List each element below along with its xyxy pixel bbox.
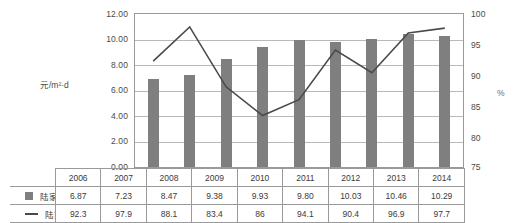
- year-header-2007: 2007: [101, 169, 146, 187]
- occupancy-2007: 97.9: [101, 205, 146, 223]
- rent-2012: 10.03: [328, 187, 373, 205]
- right-axis-tick-95: 95: [471, 40, 505, 50]
- occupancy-2012: 90.4: [328, 205, 373, 223]
- left-axis-tick-6: 6.00: [62, 85, 128, 95]
- bar-swatch-icon: [25, 192, 33, 200]
- legend-occupancy-label: 陆家嘴中心区入驻率: [45, 208, 55, 220]
- occupancy-2006: 92.3: [55, 205, 100, 223]
- right-axis-tick-100: 100: [471, 9, 505, 19]
- rent-2013: 10.46: [374, 187, 419, 205]
- rent-2010: 9.93: [237, 187, 282, 205]
- table-row-years: 2006 2007 2008 2009 2010 2011 2012 2013 …: [10, 169, 465, 187]
- right-axis-tick-90: 90: [471, 71, 505, 81]
- line-swatch-icon: [25, 213, 38, 215]
- year-header-2014: 2014: [419, 169, 465, 187]
- year-header-2006: 2006: [55, 169, 100, 187]
- year-header-2012: 2012: [328, 169, 373, 187]
- legend-occupancy: 陆家嘴中心区入驻率: [10, 205, 55, 223]
- left-axis-tick-4: 4.00: [62, 111, 128, 121]
- occupancy-2010: 86: [237, 205, 282, 223]
- left-axis-tick-10: 10.00: [62, 34, 128, 44]
- left-axis-tick-2: 2.00: [62, 136, 128, 146]
- rent-2007: 7.23: [101, 187, 146, 205]
- table-corner: [10, 169, 55, 187]
- occupancy-2009: 83.4: [192, 205, 237, 223]
- occupancy-2013: 96.9: [374, 205, 419, 223]
- rent-2006: 6.87: [55, 187, 100, 205]
- year-header-2013: 2013: [374, 169, 419, 187]
- year-header-2010: 2010: [237, 169, 282, 187]
- right-axis-tick-80: 80: [471, 133, 505, 143]
- right-axis-tick-85: 85: [471, 102, 505, 112]
- year-header-2008: 2008: [146, 169, 191, 187]
- rent-2014: 10.29: [419, 187, 465, 205]
- occupancy-2014: 97.7: [419, 205, 465, 223]
- rent-2008: 8.47: [146, 187, 191, 205]
- plot-area: [134, 13, 464, 168]
- right-axis-tick-75: 75: [471, 162, 505, 172]
- rent-2011: 9.80: [283, 187, 328, 205]
- chart-screenshot: 元/m²·d % 12.00 10.00 8.00 6.00 4.00 2.00…: [0, 0, 520, 223]
- year-header-2009: 2009: [192, 169, 237, 187]
- occupancy-2011: 94.1: [283, 205, 328, 223]
- year-header-2011: 2011: [283, 169, 328, 187]
- rent-2009: 9.38: [192, 187, 237, 205]
- data-table: 2006 2007 2008 2009 2010 2011 2012 2013 …: [10, 168, 465, 223]
- right-axis-title: %: [497, 88, 505, 98]
- line-series: [135, 14, 465, 169]
- table-row-occupancy: 陆家嘴中心区入驻率 92.3 97.9 88.1 83.4 86 94.1 90…: [10, 205, 465, 223]
- combo-chart: 元/m²·d % 12.00 10.00 8.00 6.00 4.00 2.00…: [0, 0, 520, 168]
- table-row-rent: 陆家嘴中心区平均租金 6.87 7.23 8.47 9.38 9.93 9.80…: [10, 187, 465, 205]
- legend-rent-label: 陆家嘴中心区平均租金: [40, 190, 55, 202]
- left-axis-tick-8: 8.00: [62, 60, 128, 70]
- occupancy-2008: 88.1: [146, 205, 191, 223]
- legend-rent: 陆家嘴中心区平均租金: [10, 187, 55, 205]
- left-axis-tick-12: 12.00: [62, 9, 128, 19]
